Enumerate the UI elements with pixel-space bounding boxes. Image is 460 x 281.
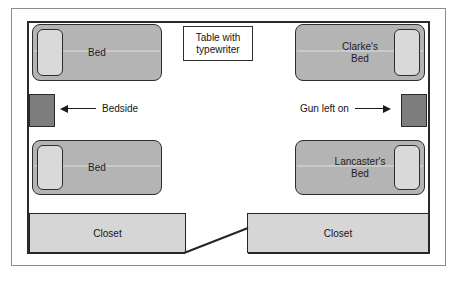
table-with-typewriter: Table with typewriter: [183, 26, 253, 61]
arrow-line: [68, 108, 96, 110]
bed-bottom-right: Lancaster's Bed: [295, 140, 425, 195]
bed-top-right: Clarke's Bed: [295, 24, 425, 81]
closet-left: Closet: [29, 213, 186, 253]
floor-plan-diagram: Bed Clarke's Bed Bed Lancaster's Bed Bed…: [0, 0, 460, 281]
pillow: [37, 29, 63, 76]
closet-right-label: Closet: [324, 228, 352, 239]
closet-right: Closet: [247, 213, 429, 253]
arrow-right-icon: [383, 105, 391, 113]
pillow: [394, 145, 420, 190]
bed-top-left: Bed: [32, 24, 162, 81]
arrow-left-icon: [60, 105, 68, 113]
bed-bottom-left: Bed: [32, 140, 162, 195]
arrow-line: [355, 108, 383, 110]
table-with-typewriter-label: Table with typewriter: [196, 32, 240, 56]
gun-left-on-annotation: Gun left on: [300, 103, 391, 114]
bedside-annotation: Bedside: [60, 103, 138, 114]
room-wall-top: [27, 21, 430, 23]
pillow: [37, 145, 63, 190]
bedside-annotation-label: Bedside: [102, 103, 138, 114]
bedside-table-left: [29, 94, 55, 127]
closet-left-label: Closet: [93, 228, 121, 239]
bedside-table-right: [401, 94, 427, 127]
pillow: [394, 29, 420, 76]
gun-left-on-annotation-label: Gun left on: [300, 103, 349, 114]
